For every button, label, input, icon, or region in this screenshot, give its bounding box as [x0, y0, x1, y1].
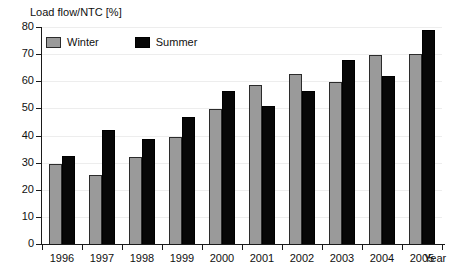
bar-winter-2002 [289, 74, 302, 244]
bar-winter-1996 [49, 164, 62, 244]
y-tick-label: 50 [0, 102, 34, 113]
bar-summer-2003 [342, 60, 355, 244]
bar-winter-2000 [209, 109, 222, 244]
bar-winter-2004 [369, 55, 382, 244]
y-tick [36, 81, 41, 82]
x-tick [242, 245, 243, 250]
legend-item-winter: Winter [46, 37, 99, 48]
bar-summer-1997 [102, 130, 115, 244]
bar-summer-1996 [62, 156, 75, 244]
bar-summer-2004 [382, 76, 395, 244]
x-tick-label: 1998 [122, 252, 162, 264]
y-tick-label: 30 [0, 157, 34, 168]
legend-label-summer: Summer [156, 37, 198, 48]
bar-summer-2001 [262, 106, 275, 244]
x-tick [282, 245, 283, 250]
x-tick [202, 245, 203, 250]
bar-winter-1999 [169, 137, 182, 244]
y-tick-label: 80 [0, 21, 34, 32]
legend: Winter Summer [46, 37, 197, 48]
x-tick [402, 245, 403, 250]
x-tick-label: 2002 [282, 252, 322, 264]
bar-chart: Load flow/NTC [%] 01020304050607080 1996… [0, 0, 464, 280]
x-axis-line [41, 244, 445, 245]
bar-winter-2005 [409, 54, 422, 244]
x-tick [162, 245, 163, 250]
x-tick [322, 245, 323, 250]
legend-swatch-winter-icon [46, 37, 61, 48]
legend-item-summer: Summer [135, 37, 198, 48]
bar-winter-1997 [89, 175, 102, 244]
y-tick [36, 54, 41, 55]
x-tick-label: 1996 [42, 252, 82, 264]
x-tick-label: 1999 [162, 252, 202, 264]
y-tick-label: 0 [0, 238, 34, 249]
bar-summer-2002 [302, 91, 315, 244]
y-tick-label: 20 [0, 184, 34, 195]
y-tick [36, 190, 41, 191]
x-tick [82, 245, 83, 250]
y-tick-labels: 01020304050607080 [0, 0, 34, 280]
plot-area [42, 27, 442, 244]
y-axis-title: Load flow/NTC [%] [30, 6, 122, 19]
bar-summer-1999 [182, 117, 195, 244]
bar-winter-1998 [129, 157, 142, 244]
y-tick [36, 163, 41, 164]
x-tick-label: 2000 [202, 252, 242, 264]
y-tick-label: 60 [0, 75, 34, 86]
x-tick [442, 245, 443, 250]
y-tick [36, 244, 41, 245]
y-axis-line [41, 27, 42, 245]
bar-winter-2003 [329, 82, 342, 244]
legend-label-winter: Winter [67, 37, 99, 48]
legend-swatch-summer-icon [135, 37, 150, 48]
x-tick [42, 245, 43, 250]
x-tick-label: 1997 [82, 252, 122, 264]
bar-summer-1998 [142, 139, 155, 244]
y-tick [36, 27, 41, 28]
x-tick-label: 2004 [362, 252, 402, 264]
bar-summer-2005 [422, 30, 435, 244]
bar-winter-2001 [249, 85, 262, 244]
bar-summer-2000 [222, 91, 235, 244]
x-tick [362, 245, 363, 250]
y-tick-label: 40 [0, 130, 34, 141]
x-axis-title: Year [424, 252, 446, 264]
gridline [42, 27, 442, 28]
x-tick-label: 2003 [322, 252, 362, 264]
y-tick-label: 70 [0, 48, 34, 59]
y-tick [36, 217, 41, 218]
x-tick [122, 245, 123, 250]
y-tick [36, 108, 41, 109]
y-tick [36, 136, 41, 137]
y-tick-label: 10 [0, 211, 34, 222]
gridline [42, 54, 442, 55]
x-tick-label: 2001 [242, 252, 282, 264]
